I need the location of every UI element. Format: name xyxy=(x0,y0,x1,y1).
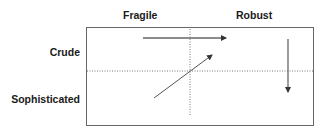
arrow-sophisticated-to-crude-robust xyxy=(154,55,212,98)
quadrant-diagram xyxy=(0,0,327,132)
frame xyxy=(87,28,314,126)
